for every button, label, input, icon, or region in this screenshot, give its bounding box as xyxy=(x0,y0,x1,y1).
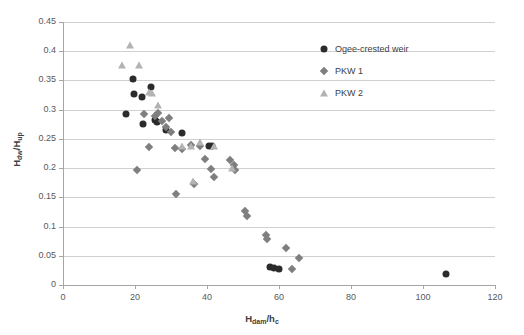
y-axis-title-slash: /H xyxy=(11,141,22,151)
data-point xyxy=(276,265,283,272)
y-tick-label: 0 xyxy=(16,280,56,289)
data-point xyxy=(228,165,236,172)
data-point xyxy=(148,89,156,96)
x-tick-label: 40 xyxy=(187,293,227,302)
legend-swatch xyxy=(318,65,330,77)
data-point xyxy=(443,271,450,278)
data-point xyxy=(118,61,126,68)
data-point xyxy=(130,75,137,82)
y-tick-label: 0.15 xyxy=(16,192,56,201)
legend-item-1[interactable]: Ogee-crested weir xyxy=(318,38,468,60)
scatter-chart: 00.050.10.150.20.250.30.350.40.45 020406… xyxy=(0,0,524,335)
y-tick-label: 0.4 xyxy=(16,46,56,55)
legend-label: Ogee-crested weir xyxy=(335,44,409,54)
data-point xyxy=(196,138,204,145)
data-point xyxy=(295,254,303,262)
data-point xyxy=(140,110,148,118)
data-point xyxy=(187,143,195,150)
data-point xyxy=(172,190,180,198)
legend-label: PKW 1 xyxy=(335,66,363,76)
triangle-marker-icon xyxy=(320,90,328,97)
data-point xyxy=(263,235,271,243)
data-point xyxy=(189,177,197,184)
data-point xyxy=(178,143,186,150)
x-tick-label: 120 xyxy=(475,293,515,302)
x-axis-title: Hdam/hc xyxy=(0,313,524,324)
data-point xyxy=(167,128,175,136)
data-point xyxy=(145,143,153,151)
y-tick-label: 0.2 xyxy=(16,163,56,172)
data-point xyxy=(154,101,162,108)
chart-legend: Ogee-crested weirPKW 1PKW 2 xyxy=(318,38,468,104)
x-axis-title-slash: /h xyxy=(266,313,274,324)
y-axis-title-main: H xyxy=(11,160,22,167)
data-point xyxy=(210,173,218,181)
y-tick-label: 0.05 xyxy=(16,251,56,260)
x-tick-label: 100 xyxy=(403,293,443,302)
y-axis-title-sub1: dw xyxy=(16,150,23,160)
data-point xyxy=(126,41,134,48)
x-axis-title-sub2: c xyxy=(275,318,279,325)
data-point xyxy=(178,130,185,137)
diamond-marker-icon xyxy=(320,67,328,75)
data-point xyxy=(131,90,138,97)
data-point xyxy=(140,121,147,128)
y-tick-label: 0.35 xyxy=(16,75,56,84)
x-tick-label: 80 xyxy=(331,293,371,302)
legend-swatch xyxy=(318,43,330,55)
circle-marker-icon xyxy=(321,46,328,53)
x-axis-title-sub1: dam xyxy=(252,318,266,325)
y-tick-label: 0.3 xyxy=(16,105,56,114)
legend-swatch xyxy=(318,87,330,99)
x-tick-mark xyxy=(495,285,496,289)
x-tick-label: 60 xyxy=(259,293,299,302)
data-point xyxy=(201,155,209,163)
y-axis-title-sub2: up xyxy=(16,132,23,141)
x-tick-label: 20 xyxy=(115,293,155,302)
data-point xyxy=(287,264,295,272)
y-tick-label: 0.1 xyxy=(16,222,56,231)
x-axis-line xyxy=(63,285,495,286)
data-point xyxy=(210,143,218,150)
data-point xyxy=(123,110,130,117)
data-point xyxy=(135,62,143,69)
legend-item-3[interactable]: PKW 2 xyxy=(318,82,468,104)
legend-item-2[interactable]: PKW 1 xyxy=(318,60,468,82)
y-axis-title: Hdw/Hup xyxy=(11,90,22,210)
x-tick-label: 0 xyxy=(43,293,83,302)
y-tick-label: 0.45 xyxy=(16,17,56,26)
data-point xyxy=(282,244,290,252)
legend-label: PKW 2 xyxy=(335,88,363,98)
data-point xyxy=(133,166,141,174)
